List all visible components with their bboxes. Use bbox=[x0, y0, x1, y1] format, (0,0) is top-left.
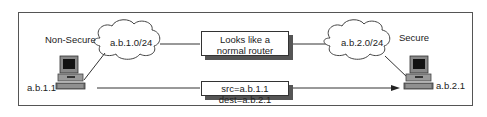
network-label-left: a.b.1.0/24 bbox=[110, 38, 152, 48]
packet-box: src=a.b.1.1 dest=a.b.2.1 bbox=[201, 81, 289, 96]
link-right-cloud-host bbox=[385, 56, 408, 78]
computer-icon-left bbox=[56, 56, 85, 89]
network-label-right: a.b.2.0/24 bbox=[341, 38, 383, 48]
router-box-line1: Looks like a bbox=[202, 34, 288, 45]
zone-label-secure: Secure bbox=[399, 33, 429, 43]
link-left-cloud-host bbox=[84, 53, 105, 80]
host-label-left: a.b.1.1 bbox=[27, 83, 56, 93]
router-box: Looks like a normal router bbox=[201, 31, 289, 56]
host-label-right: a.b.2.1 bbox=[436, 81, 465, 91]
computer-icon-right bbox=[404, 56, 433, 89]
arrow-head-icon bbox=[391, 85, 400, 91]
router-box-line2: normal router bbox=[202, 45, 288, 56]
packet-box-label: src=a.b.1.1 dest=a.b.2.1 bbox=[219, 83, 272, 105]
zone-label-non-secure: Non-Secure bbox=[45, 35, 96, 45]
